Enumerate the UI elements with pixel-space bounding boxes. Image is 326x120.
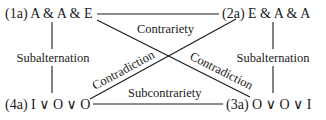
corner-3a: (3a) O ∨ O ∨ I — [226, 97, 312, 113]
label-subalternation-left: Subalternation — [17, 51, 91, 65]
label-subcontrariety: Subcontrariety — [128, 86, 202, 100]
corner-4a: (4a) I ∨ O ∨ O — [5, 97, 90, 113]
label-subalternation-right: Subalternation — [237, 51, 311, 65]
corner-2a: (2a) E & A & A — [222, 6, 311, 22]
square-of-opposition: (1a) A & A & E (2a) E & A & A (4a) I ∨ O… — [0, 0, 326, 120]
label-contrariety: Contrariety — [137, 22, 195, 36]
corner-1a: (1a) A & A & E — [5, 6, 93, 22]
diagram-canvas: (1a) A & A & E (2a) E & A & A (4a) I ∨ O… — [0, 0, 326, 120]
